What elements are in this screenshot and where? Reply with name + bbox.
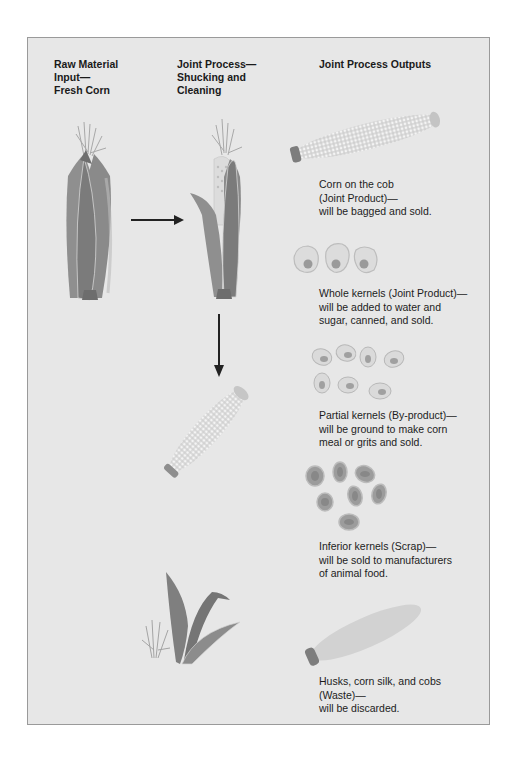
caption-line: Partial kernels (By-product)—: [319, 409, 457, 423]
header-line: Joint Process—: [177, 58, 256, 71]
caption-line: will be bagged and sold.: [319, 205, 432, 219]
header-line: Input—: [54, 71, 118, 84]
cleaned-cob-icon: [152, 385, 262, 477]
caption-line: sugar, canned, and sold.: [319, 314, 467, 328]
corn-on-cob-icon: [285, 112, 445, 162]
caption-whole-kernels: Whole kernels (Joint Product)— will be a…: [319, 287, 467, 328]
shucked-corn-icon: [190, 115, 250, 305]
caption-line: of animal food.: [319, 567, 452, 581]
caption-husks-waste: Husks, corn silk, and cobs (Waste)— will…: [319, 675, 441, 716]
fresh-corn-icon: [62, 118, 122, 303]
caption-line: (Waste)—: [319, 689, 441, 703]
partial-kernels-icon: [310, 343, 420, 403]
caption-line: will be discarded.: [319, 702, 441, 716]
caption-line: Corn on the cob: [319, 178, 432, 192]
header-raw-material: Raw Material Input— Fresh Corn: [54, 58, 118, 97]
husks-silk-icon: [140, 570, 250, 670]
arrow-down-icon: [212, 313, 226, 379]
caption-line: (Joint Product)—: [319, 192, 432, 206]
caption-partial-kernels: Partial kernels (By-product)— will be gr…: [319, 409, 457, 450]
caption-corn-on-cob: Corn on the cob (Joint Product)— will be…: [319, 178, 432, 219]
header-line: Fresh Corn: [54, 84, 118, 97]
caption-line: Inferior kernels (Scrap)—: [319, 540, 452, 554]
header-line: Shucking and: [177, 71, 256, 84]
header-outputs: Joint Process Outputs: [319, 58, 431, 71]
caption-line: will be added to water and: [319, 301, 467, 315]
whole-kernels-icon: [290, 240, 390, 280]
caption-line: Husks, corn silk, and cobs: [319, 675, 441, 689]
caption-line: Whole kernels (Joint Product)—: [319, 287, 467, 301]
header-line: Raw Material: [54, 58, 118, 71]
caption-inferior-kernels: Inferior kernels (Scrap)— will be sold t…: [319, 540, 452, 581]
caption-line: meal or grits and sold.: [319, 436, 457, 450]
header-line: Cleaning: [177, 84, 256, 97]
header-joint-process: Joint Process— Shucking and Cleaning: [177, 58, 256, 97]
header-line: Joint Process Outputs: [319, 58, 431, 71]
caption-line: will be ground to make corn: [319, 423, 457, 437]
inferior-kernels-icon: [305, 462, 405, 534]
arrow-right-icon: [130, 213, 186, 227]
caption-line: will be sold to manufacturers: [319, 554, 452, 568]
bare-cob-icon: [300, 598, 430, 668]
